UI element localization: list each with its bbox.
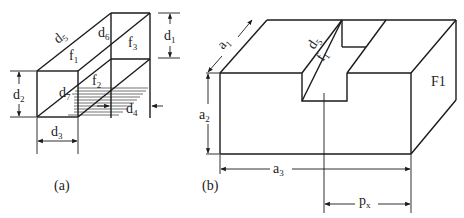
label-d5-b: d5 xyxy=(304,33,325,52)
label-d7: d7 xyxy=(59,85,71,102)
dimension-d1: d1 xyxy=(158,13,180,58)
figure-b: a1 a2 a3 px d5 f1 F1 (b) xyxy=(199,20,456,213)
label-f1: f1 xyxy=(69,48,78,65)
label-a3: a3 xyxy=(273,161,284,178)
label-d6: d6 xyxy=(98,25,110,42)
notched-block xyxy=(220,20,456,154)
label-d3: d3 xyxy=(51,124,63,141)
dimension-d3: d3 xyxy=(37,118,78,154)
channel-box xyxy=(37,13,150,118)
caption-a: (a) xyxy=(54,178,70,194)
label-d5: d5 xyxy=(51,27,71,48)
label-a1: a1 xyxy=(214,34,234,53)
figure-a: d1 d2 d3 d4 d5 d6 f1 f2 f3 d7 ( xyxy=(10,13,180,194)
dimension-d2: d2 xyxy=(10,71,36,117)
label-a2: a2 xyxy=(199,107,210,124)
label-px: px xyxy=(359,193,371,210)
label-f3: f3 xyxy=(128,35,138,52)
label-d2: d2 xyxy=(13,87,25,104)
label-d4: d4 xyxy=(126,101,138,118)
dimension-d4: d4 xyxy=(97,101,163,118)
dimension-a2: a2 xyxy=(199,73,219,154)
dimension-px: px xyxy=(324,93,410,213)
label-d1: d1 xyxy=(164,28,176,45)
diagram-canvas: d1 d2 d3 d4 d5 d6 f1 f2 f3 d7 ( xyxy=(0,0,464,218)
dimension-a1: a1 xyxy=(208,20,252,72)
label-f2: f2 xyxy=(92,73,101,90)
label-F1: F1 xyxy=(431,74,446,89)
caption-b: (b) xyxy=(202,178,219,194)
